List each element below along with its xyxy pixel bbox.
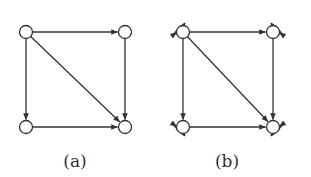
graph-figure: (a) (b): [0, 0, 311, 177]
node-bl: [20, 121, 33, 134]
node-tl: [177, 26, 190, 39]
node-tl: [20, 26, 33, 39]
node-tr: [119, 26, 132, 39]
caption-b: (b): [215, 151, 239, 171]
node-tr: [267, 26, 280, 39]
caption-a: (a): [63, 151, 86, 171]
edge-tl-to-br: [31, 37, 120, 122]
node-br: [267, 121, 280, 134]
panel-a: [20, 26, 132, 134]
node-bl: [177, 121, 190, 134]
node-br: [119, 121, 132, 134]
panel-b: [174, 23, 281, 135]
edge-tl-to-br: [187, 37, 267, 122]
